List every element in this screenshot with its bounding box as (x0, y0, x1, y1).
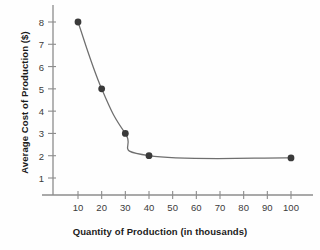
tick-mark-group (48, 22, 291, 199)
plot-svg (0, 0, 320, 250)
data-point-marker (75, 19, 82, 26)
data-point-marker (98, 85, 105, 92)
data-series-group (75, 19, 295, 162)
data-point-marker (122, 130, 129, 137)
chart-container: Average Cost of Production ($) Quantity … (0, 0, 320, 250)
data-point-marker (288, 155, 295, 162)
series-line (78, 22, 291, 159)
axes-group (42, 5, 313, 195)
data-point-marker (146, 152, 153, 159)
